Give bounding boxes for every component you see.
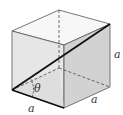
angle-label: θ — [34, 82, 41, 95]
cube-svg: θ a a a — [0, 0, 123, 115]
vertical-edge-label: a — [114, 48, 121, 61]
cube-diagram: θ a a a — [0, 0, 123, 115]
front-edge-label: a — [28, 102, 35, 115]
right-edge-label: a — [91, 93, 98, 106]
